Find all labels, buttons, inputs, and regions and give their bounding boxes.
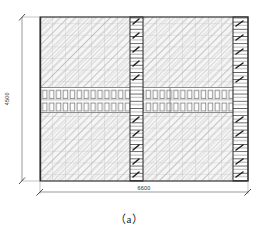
center-column-strip	[130, 17, 143, 181]
lower-masonry-band	[40, 113, 248, 181]
upper-hatch-overlay	[40, 17, 248, 87]
right-column-bands	[233, 17, 248, 181]
middle-block-band	[40, 87, 248, 113]
masonry-wall-elevation-figure	[0, 0, 259, 240]
right-column-strip	[233, 17, 248, 181]
width-dimension-label: 6600	[0, 186, 259, 192]
lower-hatch-overlay	[40, 113, 248, 181]
figure-caption: （a）	[0, 210, 259, 226]
upper-masonry-band	[40, 17, 248, 87]
height-dimension-label: 4500	[5, 74, 11, 124]
block-row-lower	[40, 100, 248, 111]
center-column-bands	[130, 17, 143, 181]
block-row-upper	[40, 88, 248, 99]
